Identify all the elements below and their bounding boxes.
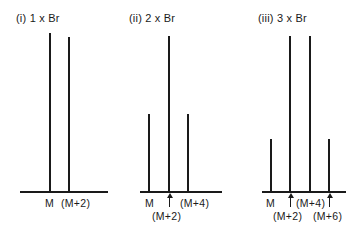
peak-label: (M+4)	[296, 197, 325, 209]
peak-m	[148, 114, 150, 192]
peak-m	[270, 139, 272, 192]
peak-label: (M+2)	[152, 210, 181, 222]
peak-m-plus-4	[187, 114, 189, 192]
peak-m-plus-2	[68, 37, 70, 192]
peak-label: (M+2)	[61, 197, 90, 209]
peak-label: (M+6)	[313, 210, 342, 222]
panel-title: (i) 1 x Br	[16, 12, 60, 24]
arrow-up-icon	[290, 197, 291, 207]
peak-m	[49, 33, 51, 192]
baseline	[140, 191, 222, 193]
peak-label: M	[266, 197, 275, 209]
baseline	[262, 191, 346, 193]
panel-title: (iii) 3 x Br	[258, 12, 307, 24]
peak-m-plus-2	[168, 36, 170, 192]
arrow-up-icon	[329, 197, 330, 207]
peak-m-plus-4	[309, 36, 311, 192]
arrow-up-icon	[169, 197, 170, 207]
baseline	[20, 191, 108, 193]
peak-label: M	[45, 197, 54, 209]
peak-m-plus-2	[289, 36, 291, 192]
peak-label: M	[145, 197, 154, 209]
peak-label: (M+4)	[180, 197, 209, 209]
peak-label: (M+2)	[273, 210, 302, 222]
peak-m-plus-6	[328, 139, 330, 192]
panel-title: (ii) 2 x Br	[129, 12, 175, 24]
